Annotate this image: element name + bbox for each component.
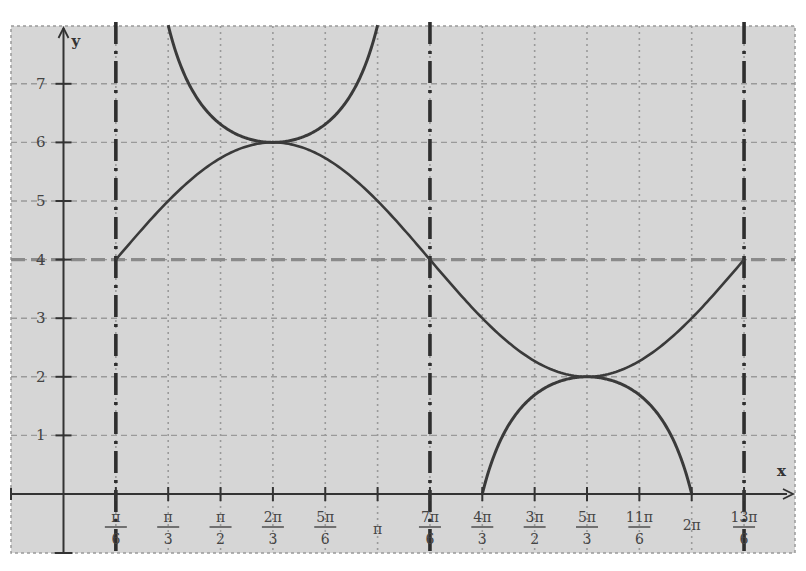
x-tick-denominator: 2 [530,531,539,547]
x-tick-numerator: 5π [316,509,334,525]
x-tick-denominator: 6 [740,531,749,547]
plot-background [11,26,795,553]
y-tick-label: 1 [36,426,46,444]
y-tick-label: 6 [36,133,46,151]
y-tick-label: 2 [36,368,46,386]
x-tick-numerator: 4π [473,509,491,525]
x-tick-numerator: 7π [421,509,439,525]
x-tick-denominator: 6 [425,531,434,547]
x-axis-label: x [777,462,787,480]
y-tick-label: 7 [36,75,46,93]
x-tick-denominator: 3 [583,531,592,547]
x-tick-numerator: 2π [264,509,282,525]
x-tick-numerator: 13π [731,509,758,525]
x-tick-numerator: 11π [626,509,653,525]
x-tick-denominator: 3 [268,531,277,547]
x-tick-numerator: π [216,509,225,525]
x-tick-denominator: 3 [164,531,173,547]
y-tick-label: 3 [36,309,46,327]
x-tick-numerator: 5π [578,509,596,525]
x-tick-denominator: 6 [111,531,120,547]
x-tick-label: π [373,521,382,537]
x-tick-numerator: π [111,509,120,525]
x-tick-single: π [373,521,382,537]
y-tick-label: 4 [36,251,46,269]
x-tick-numerator: 3π [526,509,544,525]
x-tick-denominator: 2 [216,531,225,547]
graph-plot: yx π6π3π22π35π6π7π64π33π25π311π62π13π612… [0,0,806,571]
x-tick-numerator: π [164,509,173,525]
x-tick-denominator: 3 [478,531,487,547]
x-tick-single: 2π [683,517,701,533]
x-tick-denominator: 6 [635,531,644,547]
y-axis-label: y [71,32,82,50]
x-tick-label: 2π [683,517,701,533]
y-tick-label: 5 [36,192,46,210]
x-tick-denominator: 6 [321,531,330,547]
